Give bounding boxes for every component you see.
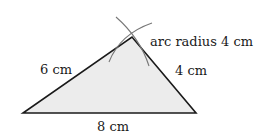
label-left-side: 6 cm [40,62,72,77]
label-right-side: 4 cm [175,63,207,78]
label-base: 8 cm [97,119,129,133]
label-arc-note: arc radius 4 cm [150,34,253,49]
triangle-construction-diagram: 6 cm 4 cm 8 cm arc radius 4 cm [0,0,266,133]
